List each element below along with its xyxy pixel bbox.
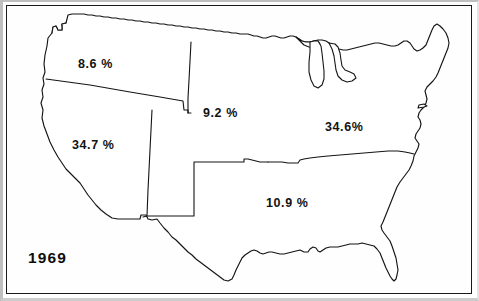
figure-page: 8.6 % 9.2 % 34.7 % 34.6% 10.9 % 1969 bbox=[0, 0, 479, 301]
region-label-northwest: 8.6 % bbox=[78, 57, 113, 71]
year-label: 1969 bbox=[28, 249, 67, 267]
region-label-south: 10.9 % bbox=[266, 196, 309, 210]
long-island bbox=[418, 104, 427, 108]
region-label-north-central: 9.2 % bbox=[203, 106, 238, 120]
region-label-southwest: 34.7 % bbox=[72, 138, 115, 152]
lake-michigan bbox=[309, 41, 324, 88]
region-label-northeast: 34.6% bbox=[325, 120, 363, 134]
